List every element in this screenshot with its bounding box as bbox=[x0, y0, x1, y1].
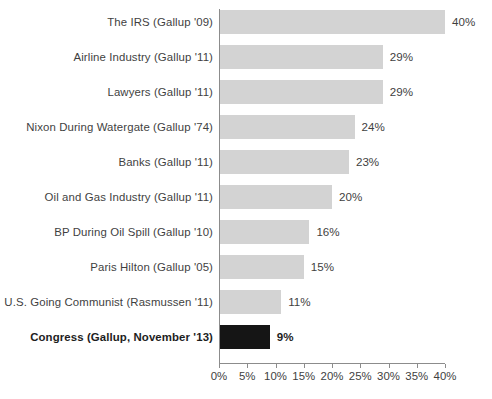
bar-category-label: Airline Industry (Gallup '11) bbox=[74, 45, 213, 69]
bar bbox=[219, 10, 445, 34]
chart-bar-row: Oil and Gas Industry (Gallup '11)20% bbox=[0, 185, 492, 209]
y-axis-line bbox=[219, 9, 220, 364]
bar-value-label: 20% bbox=[339, 185, 362, 209]
bar bbox=[219, 290, 281, 314]
x-axis-tick-mark bbox=[219, 364, 220, 368]
x-axis-tick-mark bbox=[417, 364, 418, 368]
chart-bar-row: Lawyers (Gallup '11)29% bbox=[0, 80, 492, 104]
bar bbox=[219, 220, 309, 244]
chart-bar-row: Paris Hilton (Gallup '05)15% bbox=[0, 255, 492, 279]
bar-value-label: 15% bbox=[311, 255, 334, 279]
bar-value-label: 29% bbox=[390, 80, 413, 104]
chart-bar-row: U.S. Going Communist (Rasmussen '11)11% bbox=[0, 290, 492, 314]
chart-bar-row: BP During Oil Spill (Gallup '10)16% bbox=[0, 220, 492, 244]
chart-bar-row: Airline Industry (Gallup '11)29% bbox=[0, 45, 492, 69]
bar-value-label: 24% bbox=[362, 115, 385, 139]
bar-value-label: 9% bbox=[277, 325, 294, 349]
horizontal-bar-chart: The IRS (Gallup '09)40%Airline Industry … bbox=[0, 0, 492, 399]
bar bbox=[219, 45, 383, 69]
bar-value-label: 11% bbox=[288, 290, 310, 314]
x-axis-tick-label: 40% bbox=[425, 370, 465, 382]
bar bbox=[219, 150, 349, 174]
x-axis-tick-mark bbox=[247, 364, 248, 368]
x-axis-tick-mark bbox=[389, 364, 390, 368]
bar bbox=[219, 80, 383, 104]
bar-category-label: Paris Hilton (Gallup '05) bbox=[90, 255, 213, 279]
x-axis-tick-mark bbox=[332, 364, 333, 368]
bar-category-label: Oil and Gas Industry (Gallup '11) bbox=[45, 185, 213, 209]
bar bbox=[219, 255, 304, 279]
bar-value-label: 40% bbox=[452, 10, 475, 34]
x-axis-tick-mark bbox=[304, 364, 305, 368]
bar-category-label: Congress (Gallup, November '13) bbox=[30, 325, 213, 349]
bar bbox=[219, 115, 355, 139]
bar-value-label: 23% bbox=[356, 150, 379, 174]
bar bbox=[219, 185, 332, 209]
x-axis-tick-mark bbox=[445, 364, 446, 368]
chart-bar-row: Nixon During Watergate (Gallup '74)24% bbox=[0, 115, 492, 139]
bar-value-label: 29% bbox=[390, 45, 413, 69]
bar-category-label: The IRS (Gallup '09) bbox=[107, 10, 213, 34]
chart-bar-row: Banks (Gallup '11)23% bbox=[0, 150, 492, 174]
chart-bar-row: Congress (Gallup, November '13)9% bbox=[0, 325, 492, 349]
x-axis-tick-mark bbox=[360, 364, 361, 368]
bar-category-label: BP During Oil Spill (Gallup '10) bbox=[54, 220, 213, 244]
bar-category-label: Nixon During Watergate (Gallup '74) bbox=[26, 115, 213, 139]
bar-category-label: U.S. Going Communist (Rasmussen '11) bbox=[4, 290, 213, 314]
x-axis-tick-mark bbox=[276, 364, 277, 368]
bar bbox=[219, 325, 270, 349]
bar-category-label: Banks (Gallup '11) bbox=[118, 150, 213, 174]
chart-bar-row: The IRS (Gallup '09)40% bbox=[0, 10, 492, 34]
bar-value-label: 16% bbox=[316, 220, 339, 244]
bar-category-label: Lawyers (Gallup '11) bbox=[107, 80, 213, 104]
